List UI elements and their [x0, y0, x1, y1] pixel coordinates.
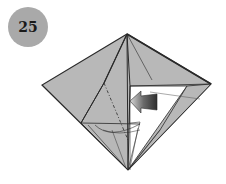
- paper-model: [42, 34, 211, 170]
- origami-diagram: [0, 0, 226, 184]
